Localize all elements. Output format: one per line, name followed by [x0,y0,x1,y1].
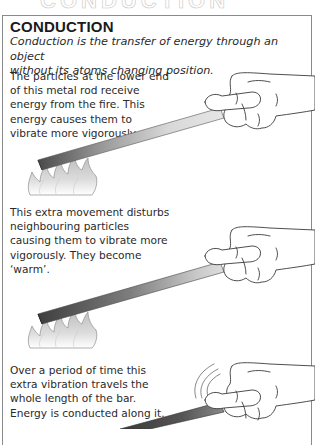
hand-icon [205,227,315,283]
metal-rod [38,262,224,324]
hand-icon [205,73,315,129]
metal-rod [38,108,224,170]
